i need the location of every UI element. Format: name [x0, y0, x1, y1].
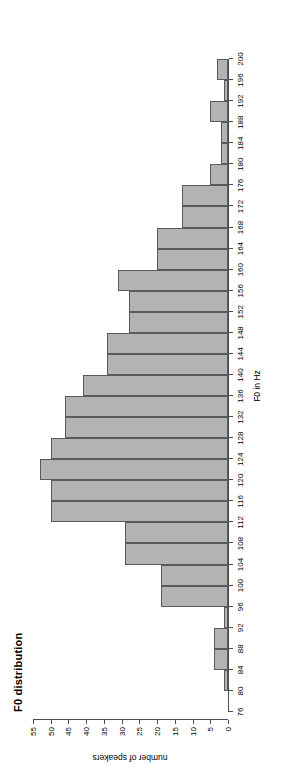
plot-panel	[33, 59, 228, 712]
y-axis-tick	[104, 720, 105, 724]
y-axis-title-text: number of speakers	[92, 753, 167, 763]
y-axis-tick	[33, 720, 34, 724]
histogram-bar	[107, 333, 228, 354]
y-axis-tick	[139, 720, 140, 724]
histogram-bar	[40, 459, 228, 480]
histogram-bar	[161, 586, 228, 607]
histogram-bar	[107, 354, 228, 375]
x-axis-tick-label: 116	[236, 495, 245, 508]
y-axis-tick	[86, 720, 87, 724]
y-axis-tick	[68, 720, 69, 724]
x-axis-tick	[229, 395, 233, 396]
y-axis-tick-label: 20	[153, 727, 162, 736]
x-axis-tick-label: 148	[236, 326, 245, 339]
x-axis-tick	[229, 669, 233, 670]
x-axis-tick	[229, 437, 233, 438]
y-axis-tick-label: 50	[46, 727, 55, 736]
x-axis-tick-label: 172	[236, 200, 245, 213]
y-axis-title: number of speakers	[55, 753, 130, 763]
histogram-bar	[221, 143, 228, 164]
y-axis-tick	[193, 720, 194, 724]
histogram-bar	[182, 185, 228, 206]
histogram-bar	[217, 59, 228, 80]
x-axis-tick-label: 168	[236, 221, 245, 234]
histogram-bar	[51, 501, 228, 522]
x-axis-tick-label: 124	[236, 453, 245, 466]
x-axis-tick	[229, 500, 233, 501]
histogram-bar	[214, 628, 228, 649]
y-axis-tick	[210, 720, 211, 724]
x-axis-tick	[229, 564, 233, 565]
x-axis-tick-label: 200	[236, 52, 245, 65]
x-axis-tick-label: 100	[236, 579, 245, 592]
histogram-bar	[214, 649, 228, 670]
rotated-figure-wrapper: F0 distribution F0 in Hz number of speak…	[0, 0, 290, 765]
x-axis-tick	[229, 542, 233, 543]
x-axis-tick-label: 160	[236, 263, 245, 276]
histogram-bar	[157, 249, 228, 270]
x-axis-tick	[229, 58, 233, 59]
x-axis-tick-label: 132	[236, 410, 245, 423]
x-axis-tick-label: 156	[236, 284, 245, 297]
x-axis-tick-label: 120	[236, 474, 245, 487]
y-axis-line	[33, 719, 228, 720]
histogram-bar	[129, 291, 228, 312]
y-axis-tick-label: 25	[135, 727, 144, 736]
y-axis-tick	[228, 720, 229, 724]
x-axis-tick	[229, 458, 233, 459]
x-axis-tick	[229, 521, 233, 522]
x-axis-tick-label: 108	[236, 537, 245, 550]
x-axis-tick	[229, 374, 233, 375]
x-axis-title: F0 in Hz	[252, 370, 262, 402]
x-axis-tick-label: 84	[236, 665, 245, 674]
y-axis-tick	[122, 720, 123, 724]
x-axis-tick-label: 76	[236, 708, 245, 717]
histogram-bar	[65, 417, 228, 438]
x-axis-tick	[229, 290, 233, 291]
x-axis-tick-label: 180	[236, 158, 245, 171]
y-axis-tick	[51, 720, 52, 724]
x-axis-tick-label: 80	[236, 686, 245, 695]
y-axis-tick	[157, 720, 158, 724]
histogram-figure: F0 distribution F0 in Hz number of speak…	[0, 0, 290, 765]
y-axis-tick-label: 40	[82, 727, 91, 736]
histogram-bar	[65, 396, 228, 417]
histogram-bar	[51, 438, 228, 459]
y-axis-tick	[175, 720, 176, 724]
x-axis-tick	[229, 627, 233, 628]
x-axis-tick	[229, 142, 233, 143]
x-axis-tick	[229, 332, 233, 333]
x-axis-tick-label: 164	[236, 242, 245, 255]
y-axis-tick-label: 0	[224, 727, 233, 731]
x-axis-tick-label: 88	[236, 644, 245, 653]
y-axis-tick-label: 5	[206, 727, 215, 731]
y-axis-tick-label: 35	[99, 727, 108, 736]
y-axis-tick-label: 10	[188, 727, 197, 736]
x-axis-tick-label: 176	[236, 179, 245, 192]
x-axis-tick	[229, 184, 233, 185]
histogram-bar	[125, 522, 228, 543]
x-axis-tick	[229, 79, 233, 80]
x-axis-tick-label: 128	[236, 431, 245, 444]
y-axis-tick-label: 30	[117, 727, 126, 736]
x-axis-tick	[229, 269, 233, 270]
x-axis-tick-label: 104	[236, 558, 245, 571]
x-axis-tick	[229, 648, 233, 649]
x-axis-tick	[229, 585, 233, 586]
x-axis-line	[228, 59, 229, 712]
histogram-bar	[125, 544, 228, 565]
x-axis-tick-label: 96	[236, 602, 245, 611]
x-axis-tick	[229, 690, 233, 691]
histogram-bar	[118, 270, 228, 291]
histogram-bar	[51, 480, 228, 501]
x-axis-tick-label: 140	[236, 368, 245, 381]
x-axis-tick-label: 184	[236, 137, 245, 150]
x-axis-tick	[229, 248, 233, 249]
page-title: F0 distribution	[12, 633, 24, 712]
x-axis-tick-label: 144	[236, 347, 245, 360]
x-axis-tick	[229, 227, 233, 228]
x-axis-tick	[229, 353, 233, 354]
x-axis-tick	[229, 711, 233, 712]
x-axis-tick	[229, 163, 233, 164]
x-axis-tick-label: 92	[236, 623, 245, 632]
